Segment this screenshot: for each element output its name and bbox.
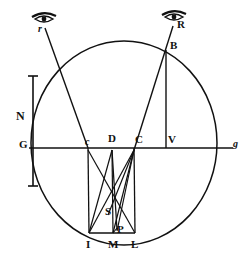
label-point-P: P bbox=[117, 224, 124, 235]
segment-D-I bbox=[89, 150, 112, 233]
label-point-V: V bbox=[168, 134, 176, 145]
ray-left-eye-to-c bbox=[45, 28, 88, 148]
ray-right-eye-to-C bbox=[134, 26, 173, 150]
label-point-M: M bbox=[108, 239, 118, 250]
label-point-S: S bbox=[105, 206, 111, 217]
label-point-I: I bbox=[86, 239, 90, 250]
label-point-g: g bbox=[233, 139, 238, 149]
label-eye-left-r: r bbox=[38, 24, 42, 34]
label-point-c: c bbox=[85, 137, 89, 147]
eye-icon-left bbox=[32, 13, 56, 22]
segment-C-L bbox=[134, 148, 135, 233]
label-point-D: D bbox=[108, 133, 116, 144]
segment-c-I bbox=[88, 148, 89, 233]
label-point-B: B bbox=[170, 40, 177, 51]
segment-c-to-L bbox=[88, 150, 135, 233]
optics-diagram bbox=[0, 0, 243, 258]
label-eye-right-R: R bbox=[177, 19, 185, 30]
label-point-G: G bbox=[19, 139, 28, 150]
label-point-C: C bbox=[135, 134, 143, 145]
segment-C-P bbox=[117, 150, 134, 231]
label-point-L: L bbox=[131, 239, 138, 250]
label-point-N: N bbox=[16, 110, 25, 122]
